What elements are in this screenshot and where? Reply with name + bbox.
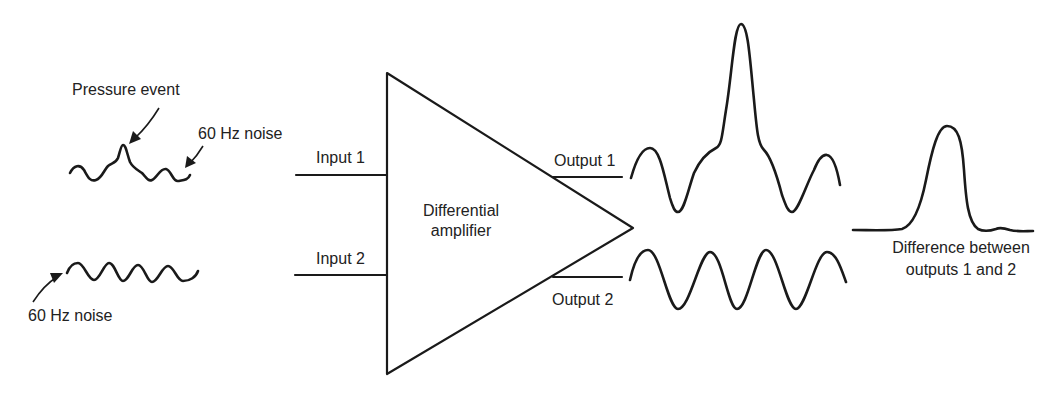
output-waveforms (630, 24, 846, 309)
output-2-waveform (630, 250, 846, 309)
difference-label-line2: outputs 1 and 2 (906, 261, 1016, 278)
difference-waveform (853, 126, 1033, 231)
pressure-event-label: Pressure event (72, 81, 180, 98)
input-1-label: Input 1 (316, 149, 365, 166)
differential-amplifier: Input 1 Input 2 Differential amplifier O… (295, 73, 633, 374)
amplifier-label-line2: amplifier (431, 222, 492, 239)
output-1-label: Output 1 (554, 152, 615, 169)
output-2-label: Output 2 (552, 291, 613, 308)
input-signal-2: 60 Hz noise (28, 263, 198, 324)
input-2-label: Input 2 (316, 250, 365, 267)
difference-result: Difference between outputs 1 and 2 (853, 126, 1033, 278)
amplifier-label-line1: Differential (423, 202, 499, 219)
differential-amplifier-diagram: Pressure event 60 Hz noise 60 Hz noise I… (0, 0, 1064, 395)
difference-label-line1: Difference between (892, 239, 1030, 256)
noise-label-bottom: 60 Hz noise (28, 307, 113, 324)
noise-waveform (67, 263, 198, 282)
input-signal-1: Pressure event 60 Hz noise (70, 81, 283, 181)
output-1-waveform (631, 24, 840, 212)
noise-label-top: 60 Hz noise (198, 125, 283, 142)
amplifier-triangle (387, 73, 633, 374)
pressure-event-arrow (135, 108, 159, 138)
pressure-event-waveform (70, 145, 190, 181)
